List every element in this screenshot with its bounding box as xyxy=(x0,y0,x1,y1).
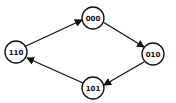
node-label: 000 xyxy=(86,15,101,23)
node-000: 000 xyxy=(82,7,104,29)
edge-110-to-000 xyxy=(26,20,82,46)
node-010: 010 xyxy=(142,43,164,65)
node-label: 101 xyxy=(86,85,101,93)
node-label: 010 xyxy=(146,51,161,59)
state-diagram: 000 010 101 110 xyxy=(0,0,176,103)
edge-010-to-101 xyxy=(104,62,144,85)
node-label: 110 xyxy=(9,49,24,57)
edge-000-to-010 xyxy=(103,22,144,47)
node-110: 110 xyxy=(5,41,27,63)
node-101: 101 xyxy=(82,77,104,99)
edge-101-to-110 xyxy=(27,58,83,83)
